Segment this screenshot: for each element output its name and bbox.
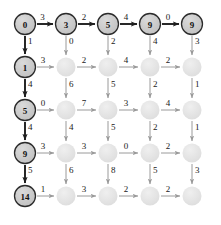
graph-node-plain [57,144,76,163]
edge-weight-label: 4 [153,36,158,46]
edge-weight-label: 5 [153,165,158,175]
node-circle [99,58,118,77]
edge-weight-label: 3 [124,98,129,108]
edge-weight-label: 3 [82,141,87,151]
node-circle [141,58,160,77]
graph-node-plain [183,58,202,77]
graph-node-labeled: 0 [15,14,36,35]
edge-weight-label: 1 [28,36,33,46]
graph-node-plain [141,101,160,120]
graph-node-labeled: 14 [15,186,36,207]
graph-node-labeled: 1 [15,57,36,78]
graph-node-plain [183,144,202,163]
node-label: 9 [190,20,195,30]
edge-weight-label: 4 [69,122,74,132]
edge-weight-label: 0 [41,98,46,108]
edge-weight-label: 2 [166,184,171,194]
node-circle [141,187,160,206]
graph-node-plain [99,144,118,163]
edge-weight-label: 3 [41,141,46,151]
node-label: 9 [148,20,153,30]
edge-weight-label: 1 [195,122,200,132]
edge-weight-label: 2 [153,79,158,89]
edge-weight-label: 0 [69,36,74,46]
edge-weight-label: 4 [124,12,129,22]
edge-weight-label: 2 [124,184,129,194]
edge-weight-label: 3 [40,12,45,22]
graph-node-plain [99,101,118,120]
graph-node-plain [183,187,202,206]
graph-node-plain [183,101,202,120]
node-circle [183,101,202,120]
graph-node-labeled: 3 [56,14,77,35]
graph-node-plain [141,58,160,77]
edge-weight-label: 8 [111,165,116,175]
graph-node-plain [57,101,76,120]
node-circle [99,101,118,120]
graph-node-labeled: 9 [15,143,36,164]
node-label: 14 [21,192,31,202]
edge-weight-label: 2 [111,36,116,46]
node-circle [141,101,160,120]
edge-weight-label: 1 [41,184,46,194]
edge-weight-label: 3 [195,165,200,175]
graph-node-plain [57,58,76,77]
node-label: 0 [23,20,28,30]
graph-node-plain [99,187,118,206]
grid-graph-diagram: 0359915914 32403242073433021322102434652… [0,0,221,225]
node-circle [183,187,202,206]
edge-weight-label: 2 [166,141,171,151]
node-label: 5 [23,106,28,116]
edge-weight-label: 4 [28,122,33,132]
edge-weight-label: 5 [111,122,116,132]
edge-weight-label: 4 [28,79,33,89]
edge-weight-label: 2 [166,55,171,65]
graph-node-labeled: 9 [182,14,203,35]
node-circle [183,58,202,77]
edge-weight-label: 5 [28,165,33,175]
node-circle [57,187,76,206]
edge-weight-label: 2 [82,55,87,65]
edge-weight-label: 1 [195,79,200,89]
graph-node-plain [57,187,76,206]
node-circle [183,144,202,163]
edge-weight-label: 0 [124,141,129,151]
graph-node-labeled: 5 [15,100,36,121]
node-circle [99,144,118,163]
edge-weight-label: 7 [82,98,87,108]
node-label: 3 [64,20,69,30]
edge-weight-label: 0 [166,12,171,22]
node-circle [99,187,118,206]
node-circle [57,144,76,163]
graph-node-plain [141,187,160,206]
edge-weight-label: 2 [82,12,87,22]
graph-canvas: 0359915914 32403242073433021322102434652… [0,0,221,225]
edge-weight-label: 2 [153,122,158,132]
edge-weight-label: 3 [82,184,87,194]
node-circle [141,144,160,163]
node-circle [57,58,76,77]
edge-weight-label: 6 [69,79,74,89]
graph-node-labeled: 9 [140,14,161,35]
graph-node-plain [141,144,160,163]
edge-weight-label: 3 [41,55,46,65]
node-circle [57,101,76,120]
edge-weight-label: 3 [195,36,200,46]
edge-weight-label: 4 [124,55,129,65]
graph-node-labeled: 5 [98,14,119,35]
edge-weight-label: 6 [69,165,74,175]
node-label: 5 [106,20,111,30]
edge-weight-label: 4 [166,98,171,108]
node-label: 1 [23,63,28,73]
graph-node-plain [99,58,118,77]
node-label: 9 [23,149,28,159]
edge-weight-label: 5 [111,79,116,89]
